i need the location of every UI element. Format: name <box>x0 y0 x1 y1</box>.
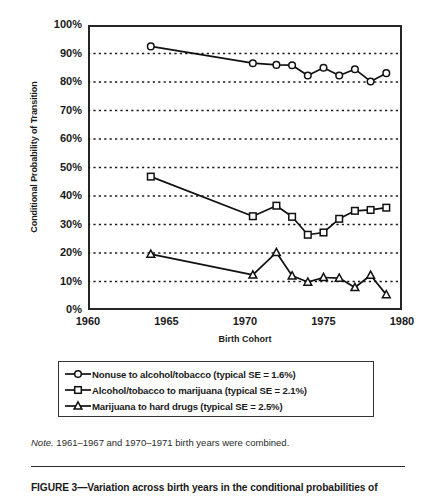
y-tick-label: 20% <box>36 247 82 258</box>
x-tick-label: 1965 <box>137 315 197 327</box>
y-tick-label: 50% <box>36 162 82 173</box>
x-tick-label: 1980 <box>372 315 429 327</box>
figure-caption: FIGURE 3—Variation across birth years in… <box>31 481 423 494</box>
x-axis-tick-labels: 19601965197019751980 <box>0 315 429 335</box>
series-line <box>151 252 386 294</box>
caption-divider <box>31 466 405 467</box>
y-tick-label: 10% <box>36 276 82 287</box>
circle-open-marker <box>383 70 390 77</box>
square-open-marker <box>289 214 296 221</box>
square-open-marker <box>273 202 280 209</box>
chart-area: Conditional Probability of Transition 0%… <box>0 0 429 348</box>
triangle-open-marker <box>320 273 328 280</box>
y-tick-label: 30% <box>36 219 82 230</box>
circle-open-marker <box>305 72 312 79</box>
data-series-3 <box>147 248 390 297</box>
y-tick-label: 60% <box>36 133 82 144</box>
series-line <box>151 177 386 235</box>
square-open-marker <box>250 213 257 220</box>
x-tick-label: 1975 <box>294 315 354 327</box>
circle-open-marker <box>289 62 296 69</box>
legend-item-label: Marijuana to hard drugs (typical SE = 2.… <box>92 401 283 412</box>
chart-legend: Nonuse to alcohol/tobacco (typical SE = … <box>58 361 374 417</box>
square-open-marker <box>64 383 92 397</box>
plot-series-canvas <box>88 25 402 310</box>
circle-open-marker <box>75 371 82 378</box>
legend-item-2[interactable]: Alcohol/tobacco to marijuana (typical SE… <box>64 382 373 398</box>
figure-note: Note. 1961–1967 and 1970–1971 birth year… <box>31 437 289 448</box>
circle-open-marker <box>273 62 280 69</box>
square-open-marker <box>305 231 312 238</box>
square-open-marker <box>383 204 390 211</box>
note-label: Note. <box>31 437 54 448</box>
triangle-open-marker <box>367 271 375 278</box>
y-tick-label: 100% <box>36 19 82 30</box>
data-series-1 <box>148 43 390 85</box>
circle-open-marker <box>367 78 374 85</box>
square-open-marker <box>352 208 359 215</box>
circle-open-marker <box>64 367 92 381</box>
square-open-marker <box>148 173 155 180</box>
legend-item-label: Nonuse to alcohol/tobacco (typical SE = … <box>92 369 296 380</box>
triangle-open-marker <box>74 402 82 409</box>
legend-item-label: Alcohol/tobacco to marijuana (typical SE… <box>92 385 307 396</box>
square-open-marker <box>336 216 343 223</box>
x-tick-label: 1960 <box>58 315 118 327</box>
y-axis-tick-labels: 0%10%20%30%40%50%60%70%80%90%100% <box>32 0 82 348</box>
square-open-marker <box>367 207 374 214</box>
x-axis-title: Birth Cohort <box>88 334 402 344</box>
circle-open-marker <box>352 66 359 73</box>
circle-open-marker <box>320 64 327 71</box>
legend-item-1[interactable]: Nonuse to alcohol/tobacco (typical SE = … <box>64 366 373 382</box>
note-text: 1961–1967 and 1970–1971 birth years were… <box>54 437 290 448</box>
triangle-open-marker <box>147 250 155 257</box>
figure-panel: Conditional Probability of Transition 0%… <box>0 0 429 425</box>
data-series-2 <box>148 173 390 238</box>
triangle-open-marker <box>273 248 281 255</box>
y-tick-label: 80% <box>36 76 82 87</box>
y-tick-label: 40% <box>36 190 82 201</box>
circle-open-marker <box>250 60 257 67</box>
circle-open-marker <box>336 72 343 79</box>
circle-open-marker <box>148 43 155 50</box>
y-tick-label: 90% <box>36 48 82 59</box>
y-tick-label: 70% <box>36 105 82 116</box>
triangle-open-marker <box>304 278 312 285</box>
legend-item-3[interactable]: Marijuana to hard drugs (typical SE = 2.… <box>64 398 373 414</box>
triangle-open-marker <box>335 274 343 281</box>
series-line <box>151 46 386 81</box>
y-tick-label: 0% <box>36 304 82 315</box>
x-tick-label: 1970 <box>215 315 275 327</box>
square-open-marker <box>75 387 82 394</box>
square-open-marker <box>320 229 327 236</box>
triangle-open-marker <box>64 399 92 413</box>
